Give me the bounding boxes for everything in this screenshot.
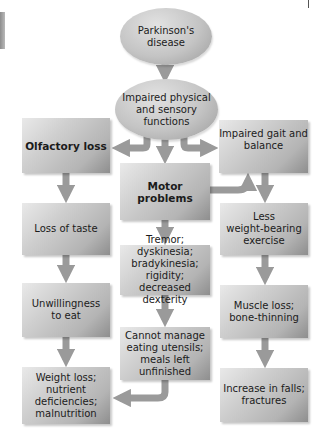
node-label: Weight loss; nutrient deficiencies; maln… [35, 372, 98, 420]
node-label: Loss of taste [34, 223, 97, 235]
node-tremor: Tremor; dyskinesia; bradykinesia; rigidi… [120, 245, 210, 295]
node-weight-loss: Weight loss; nutrient deficiencies; maln… [22, 367, 110, 424]
node-label: Increase in falls; fractures [223, 383, 305, 407]
arrow-motor-to-gait [210, 180, 248, 190]
node-label: Parkinson's disease [138, 25, 194, 49]
node-label: Impaired physical and sensory functions [122, 92, 211, 128]
node-label: Olfactory loss [25, 140, 107, 152]
node-cannot-manage-utensils: Cannot manage eating utensils; meals lef… [120, 327, 210, 380]
node-label: Impaired gait and balance [219, 128, 308, 152]
node-unwillingness-to-eat: Unwillingness to eat [22, 283, 110, 337]
node-motor-problems: Motor problems [120, 163, 210, 220]
node-label: Cannot manage eating utensils; meals lef… [125, 330, 205, 378]
node-olfactory-loss: Olfactory loss [22, 118, 110, 173]
node-impaired-gait: Impaired gait and balance [219, 120, 308, 173]
node-loss-of-taste: Loss of taste [22, 203, 110, 255]
node-parkinsons-disease: Parkinson's disease [120, 8, 212, 65]
node-label: Less weight-bearing exercise [226, 211, 302, 247]
node-impaired-physical-sensory: Impaired physical and sensory functions [115, 79, 218, 140]
arrow-cannot-to-weightloss [120, 380, 165, 398]
node-increase-in-falls: Increase in falls; fractures [220, 368, 308, 422]
node-muscle-loss: Muscle loss; bone-thinning [220, 285, 308, 338]
node-label: Muscle loss; bone-thinning [229, 300, 299, 324]
node-less-weight-bearing: Less weight-bearing exercise [220, 203, 308, 255]
node-label: Motor problems [120, 180, 210, 204]
node-label: Unwillingness to eat [32, 298, 101, 322]
node-label: Tremor; dyskinesia; bradykinesia; rigidi… [120, 234, 210, 306]
